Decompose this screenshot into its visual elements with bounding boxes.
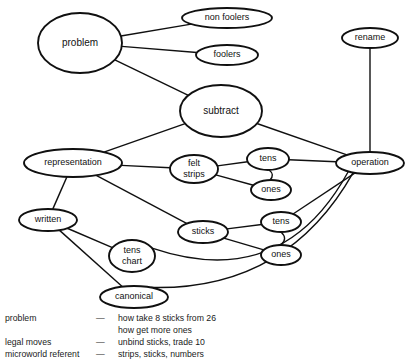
edge-problem-to-non_foolers [121,24,191,36]
edge-sticks-to-tens_bot [227,224,262,228]
node-tens_bot[interactable]: tens [261,212,301,232]
node-layer: problemnon foolersfoolersrenamesubtractr… [19,8,404,308]
node-label-ones_top: ones [261,184,281,194]
node-label-written: written [34,214,62,224]
legend-term: legal moves [0,336,96,348]
node-label-foolers: foolers [213,49,241,59]
edge-sticks-to-ones_bot [224,238,264,250]
node-operation[interactable]: operation [336,152,404,174]
node-ones_top[interactable]: ones [251,180,291,200]
legend-term: problem [0,312,96,324]
legend-row: legal moves—unbind sticks, trade 10 [0,336,411,348]
node-label-canonical: canonical [115,291,153,301]
node-rename[interactable]: rename [342,28,398,48]
edge-tens_top-to-operation [289,160,336,162]
legend-dash: — [96,336,118,348]
node-written[interactable]: written [19,209,77,231]
edge-representation-to-sticks [96,175,187,223]
node-label-non_foolers: non foolers [205,12,250,22]
node-canonical[interactable]: canonical [100,286,168,308]
node-label-representation: representation [44,157,102,167]
legend-table: problem—how take 8 sticks from 26how get… [0,312,411,360]
edge-representation-to-written [53,177,67,209]
edge-tens_top-to-ones_top [269,170,272,180]
diagram-page: problemnon foolersfoolersrenamesubtractr… [0,0,411,364]
node-felt_strips[interactable]: feltstrips [170,155,218,183]
legend-term: microworld referent [0,348,96,360]
node-non_foolers[interactable]: non foolers [182,8,272,28]
legend-value: strips, sticks, numbers [118,348,411,360]
legend-dash: — [96,348,118,360]
node-tens_top[interactable]: tens [247,148,289,170]
edge-felt_strips-to-tens_top [217,162,247,166]
node-label-sticks: sticks [192,226,215,236]
node-label-rename: rename [355,32,386,42]
legend-value: unbind sticks, trade 10 [118,336,411,348]
semantic-network-diagram: problemnon foolersfoolersrenamesubtractr… [0,0,411,320]
legend-row: how get more ones [0,324,411,336]
legend-value: how get more ones [118,324,411,336]
node-label-tens_chart: tenschart [122,245,143,266]
node-label-tens_bot: tens [272,216,290,226]
edge-representation-to-felt_strips [121,165,170,167]
node-tens_chart[interactable]: tenschart [109,240,155,272]
node-subtract[interactable]: subtract [180,85,262,137]
legend-value: how take 8 sticks from 26 [118,312,411,324]
node-ones_bot[interactable]: ones [261,245,301,265]
edge-felt_strips-to-ones_top [216,175,254,185]
legend-dash: — [96,312,118,324]
node-label-operation: operation [351,157,389,167]
edge-problem-to-subtract [115,60,189,95]
node-sticks[interactable]: sticks [178,221,228,243]
node-label-subtract: subtract [203,105,239,116]
node-representation[interactable]: representation [24,149,122,177]
node-foolers[interactable]: foolers [196,45,258,65]
node-problem[interactable]: problem [38,13,122,73]
node-label-ones_bot: ones [271,249,291,259]
legend-row: problem—how take 8 sticks from 26 [0,312,411,324]
edge-written-to-tens_chart [67,228,112,247]
node-label-problem: problem [62,37,98,48]
edge-subtract-to-representation [104,124,185,153]
edge-problem-to-foolers [122,46,197,52]
legend-row: microworld referent—strips, sticks, numb… [0,348,411,360]
node-label-tens_top: tens [259,153,277,163]
